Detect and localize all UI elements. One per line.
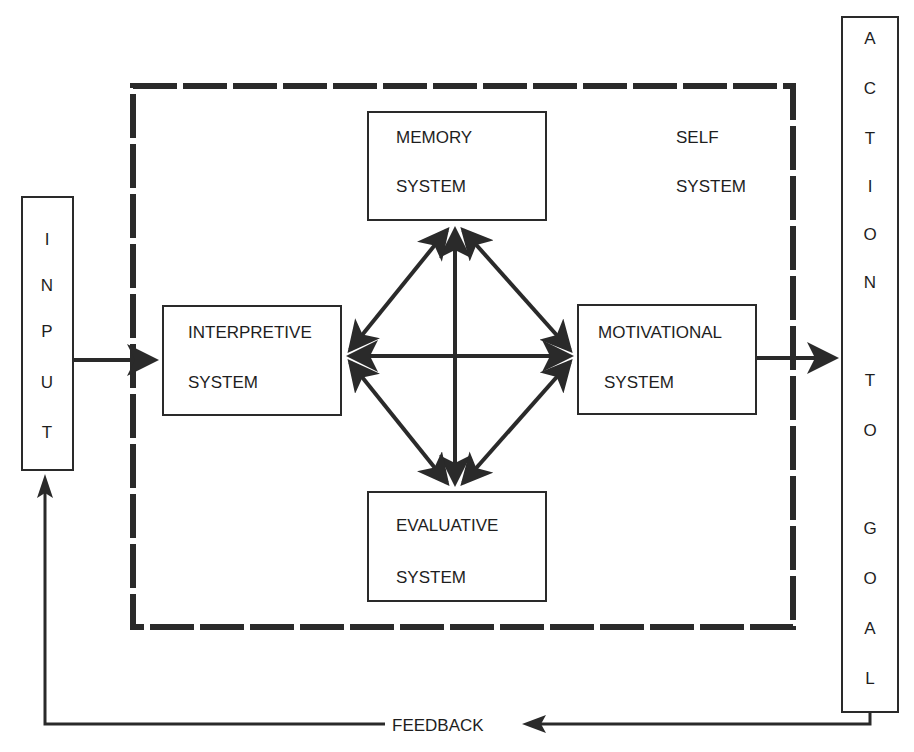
feedback-line-right xyxy=(535,712,870,724)
input-letter: T xyxy=(42,423,52,442)
action-letter: A xyxy=(864,29,876,48)
interpretive-label-line2: SYSTEM xyxy=(188,373,258,392)
action-letter: O xyxy=(863,421,876,440)
action-letter: T xyxy=(865,129,875,148)
action-letter: C xyxy=(864,79,876,98)
feedback-label: FEEDBACK xyxy=(392,716,484,735)
evaluative-label-line2: SYSTEM xyxy=(396,568,466,587)
action-letter: I xyxy=(868,177,873,196)
self-system-label-line2: SYSTEM xyxy=(676,177,746,196)
action-letter: G xyxy=(863,519,876,538)
action-letter: T xyxy=(865,371,875,390)
action-letter: L xyxy=(865,669,874,688)
motivational-evaluative-arrow xyxy=(463,362,570,483)
action-letter: O xyxy=(863,569,876,588)
interpretive-evaluative-arrow xyxy=(350,362,447,483)
internal-connections xyxy=(350,230,570,483)
memory-label-line1: MEMORY xyxy=(396,128,472,147)
input-letter: I xyxy=(45,230,50,249)
interpretive-label-line1: INTERPRETIVE xyxy=(188,323,312,342)
input-letter: U xyxy=(41,373,53,392)
self-system-label-line1: SELF xyxy=(676,128,719,147)
action-letter: O xyxy=(863,225,876,244)
action-letter: A xyxy=(864,619,876,638)
feedback-line-left xyxy=(45,488,385,724)
evaluative-label-line1: EVALUATIVE xyxy=(396,516,498,535)
action-letter: N xyxy=(864,273,876,292)
motivational-system-box xyxy=(578,305,756,414)
memory-label-line2: SYSTEM xyxy=(396,177,466,196)
self-system-diagram: I N P U T A C T I O N T O G O A L MEMORY… xyxy=(0,0,914,752)
input-letter: P xyxy=(41,322,52,341)
input-letter: N xyxy=(41,276,53,295)
motivational-label-line1: MOTIVATIONAL xyxy=(598,323,722,342)
memory-interpretive-arrow xyxy=(350,230,447,350)
motivational-label-line2: SYSTEM xyxy=(604,373,674,392)
action-to-goal-box xyxy=(842,17,898,712)
memory-motivational-arrow xyxy=(463,230,570,350)
